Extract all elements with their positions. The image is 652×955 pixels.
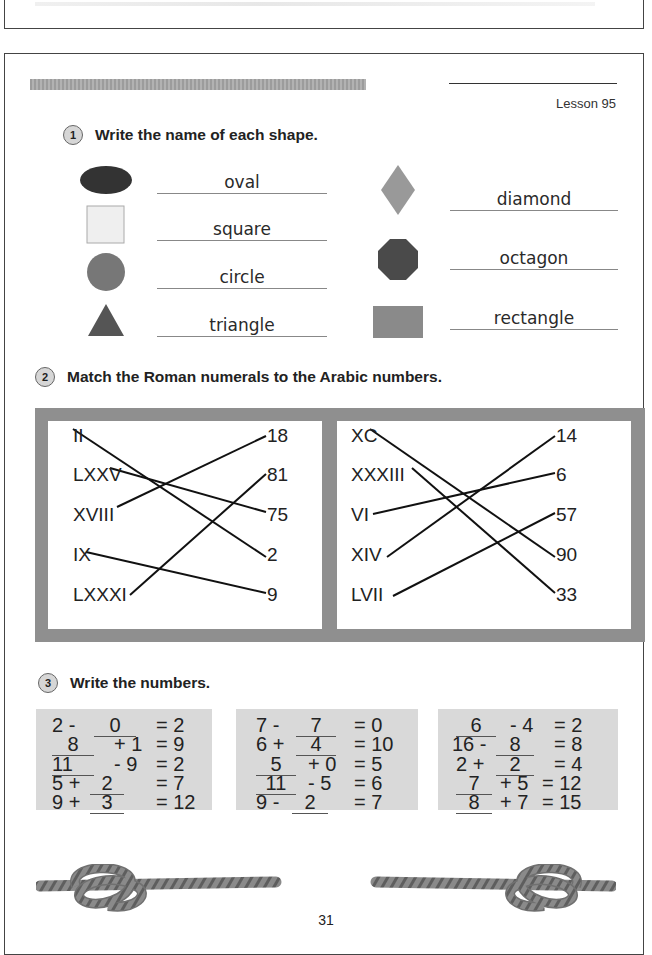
roman-numeral: XVIII xyxy=(73,504,114,526)
square-shape-icon xyxy=(86,205,126,245)
answer-octagon[interactable]: octagon xyxy=(450,247,618,270)
matching-frame: II LXXV XVIII IX LXXXI 18 81 75 2 9 XC X… xyxy=(35,408,645,642)
section-1-instruction: Write the name of each shape. xyxy=(95,126,318,144)
answer-blank[interactable]: 8 xyxy=(456,791,492,814)
math-box-1: 2 - 0 = 2 8 + 1 = 9 11 - 9 = 2 5 + 2 = 7… xyxy=(36,709,212,810)
math-box-2: 7 - 7 = 0 6 + 4 = 10 5 + 0 = 5 11 - 5 = … xyxy=(236,709,418,810)
answer-triangle[interactable]: triangle xyxy=(157,314,327,337)
roman-numeral: LXXV xyxy=(73,464,122,486)
section-1-heading: 1 Write the name of each shape. xyxy=(63,125,318,145)
answer-blank[interactable]: 3 xyxy=(90,791,124,814)
page-number: 31 xyxy=(0,912,652,928)
answer-circle[interactable]: circle xyxy=(157,266,327,289)
roman-numeral: XXXIII xyxy=(351,464,405,486)
roman-numeral: VI xyxy=(351,504,369,526)
oval-shape-icon xyxy=(78,164,134,196)
triangle-shape-icon xyxy=(86,302,126,338)
roman-numeral: LVII xyxy=(351,584,383,606)
octagon-shape-icon xyxy=(377,238,419,282)
circle-shape-icon xyxy=(86,252,126,292)
diamond-shape-icon xyxy=(378,163,418,218)
name-bar xyxy=(30,79,366,90)
answer-rectangle[interactable]: rectangle xyxy=(450,307,618,330)
equation: 9 - 2 = 7 xyxy=(236,791,418,815)
section-number-badge: 3 xyxy=(38,673,58,693)
section-2-instruction: Match the Roman numerals to the Arabic n… xyxy=(67,368,442,386)
faded-text-line xyxy=(35,2,595,6)
equation: 8 + 7 = 15 xyxy=(438,791,618,815)
arabic-number: 90 xyxy=(556,544,577,566)
roman-numeral: IX xyxy=(73,544,91,566)
answer-blank[interactable]: 2 xyxy=(292,791,328,814)
roman-numeral: LXXXI xyxy=(73,584,127,606)
roman-numeral: XIV xyxy=(351,544,382,566)
rectangle-shape-icon xyxy=(372,305,424,339)
equation: 9 + 3 = 12 xyxy=(36,791,212,815)
arabic-number: 14 xyxy=(556,425,577,447)
math-box-3: 6 - 4 = 2 16 - 8 = 8 2 + 2 = 4 7 + 5 = 1… xyxy=(438,709,618,810)
arabic-number: 81 xyxy=(267,464,288,486)
section-3-heading: 3 Write the numbers. xyxy=(38,673,210,693)
answer-oval[interactable]: oval xyxy=(157,171,327,194)
section-3-instruction: Write the numbers. xyxy=(70,674,210,692)
arabic-number: 18 xyxy=(267,425,288,447)
section-number-badge: 2 xyxy=(35,367,55,387)
match-panel-right: XC XXXIII VI XIV LVII 14 6 57 90 33 xyxy=(337,421,631,629)
arabic-number: 57 xyxy=(556,504,577,526)
section-number-badge: 1 xyxy=(63,125,83,145)
lesson-label: Lesson 95 xyxy=(556,96,616,111)
match-panel-left: II LXXV XVIII IX LXXXI 18 81 75 2 9 xyxy=(48,421,322,629)
arabic-number: 9 xyxy=(267,584,278,606)
answer-diamond[interactable]: diamond xyxy=(450,188,618,211)
previous-page-frame xyxy=(4,0,644,29)
arabic-number: 2 xyxy=(267,544,278,566)
roman-numeral: XC xyxy=(351,425,377,447)
arabic-number: 33 xyxy=(556,584,577,606)
arabic-number: 6 xyxy=(556,464,567,486)
answer-square[interactable]: square xyxy=(157,218,327,241)
roman-numeral: II xyxy=(73,425,84,447)
section-2-heading: 2 Match the Roman numerals to the Arabic… xyxy=(35,367,442,387)
arabic-number: 75 xyxy=(267,504,288,526)
date-rule xyxy=(449,83,617,84)
